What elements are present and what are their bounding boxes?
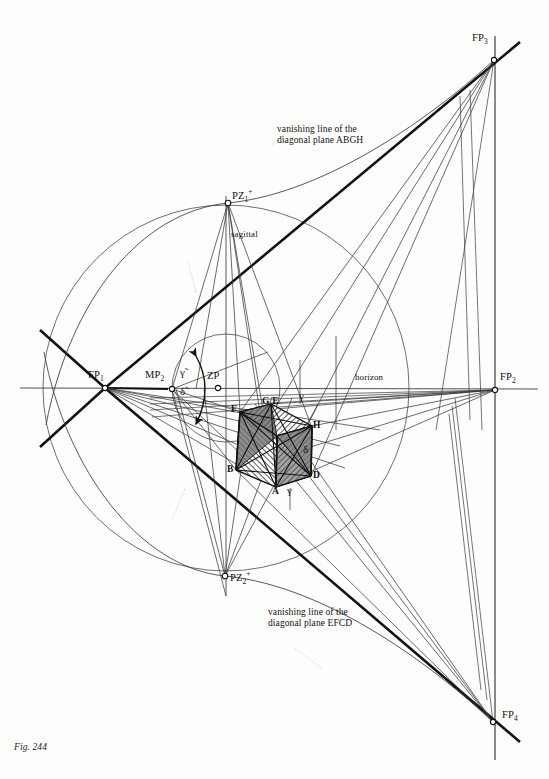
label-vanishing-line-EFCD: vanishing line of the diagonal plane EFC… <box>268 607 352 629</box>
marker-PZ2 <box>222 573 228 579</box>
label-cube-B: B <box>227 464 233 475</box>
perspective-construction-drawing <box>0 0 549 779</box>
cube-figure <box>236 404 312 487</box>
marker-MP2 <box>169 386 174 391</box>
label-gamma-top: γ <box>299 390 304 403</box>
marker-PZ1 <box>225 200 231 206</box>
label-horizon: horizon <box>355 372 383 382</box>
marker-FP1 <box>102 385 107 390</box>
arrow-circle-upper <box>188 262 196 292</box>
ray-FP1-FP4 <box>105 388 520 742</box>
ray-FP1-horizon-stub <box>105 388 168 389</box>
label-delta-right: δ <box>303 443 308 456</box>
figure-page: FP3 vanishing line of the diagonal plane… <box>0 0 549 779</box>
arrow-circle-lower <box>172 489 185 520</box>
arrow-arc-EFCD <box>294 648 322 668</box>
label-MP2: MP2 <box>145 369 164 384</box>
label-vanishing-line-ABGH: vanishing line of the diagonal plane ABG… <box>277 124 363 146</box>
label-cube-GE: G/E <box>262 396 279 407</box>
label-PZ1: PZ1+ <box>232 188 253 204</box>
label-ZP: ZP <box>207 370 219 382</box>
near-horizon-ray-fan-FP4 <box>449 398 493 722</box>
horizon-line <box>20 388 538 389</box>
marker-FP2 <box>492 387 497 392</box>
label-gamma-bottom: γ <box>287 484 292 497</box>
near-horizon-ray-fan-FP3 <box>436 60 494 430</box>
label-PZ2: PZ2+ <box>230 570 251 586</box>
label-FP1: FP1 <box>88 369 104 384</box>
label-sagittal: sagittal <box>231 229 258 239</box>
label-cube-A: A <box>272 486 279 497</box>
label-FP2: FP2 <box>500 371 516 386</box>
ray-FP1-lower-left <box>40 388 105 447</box>
label-gamma-tilde: γ̃ <box>180 366 185 379</box>
marker-FP4 <box>490 719 495 724</box>
label-FP4: FP4 <box>502 709 518 724</box>
label-cube-F: F <box>231 404 237 415</box>
angle-arc-bracket <box>196 356 205 424</box>
label-FP3: FP3 <box>472 32 488 47</box>
marker-ZP <box>215 385 220 390</box>
label-delta-tilde: δ̃ <box>180 385 185 398</box>
marker-FP3 <box>491 57 496 62</box>
figure-caption: Fig. 244 <box>14 742 47 753</box>
label-cube-H: H <box>313 420 321 431</box>
label-cube-D: D <box>313 470 320 481</box>
